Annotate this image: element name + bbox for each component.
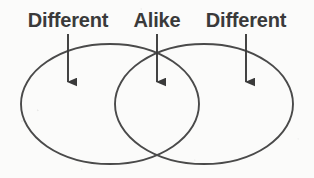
label-different-left: Different (28, 9, 109, 31)
venn-diagram-page: Different Alike Different (0, 0, 314, 178)
label-alike: Alike (134, 9, 181, 31)
right-set-ellipse (115, 44, 293, 164)
left-set-ellipse (21, 44, 199, 164)
venn-diagram-figure: Different Alike Different (0, 0, 314, 178)
label-different-right: Different (206, 9, 287, 31)
